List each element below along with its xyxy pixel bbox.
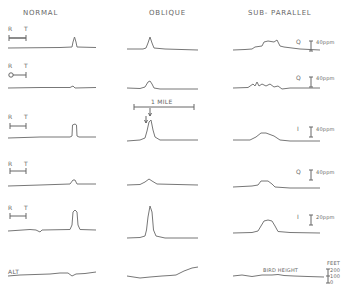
normal-trace-row2 bbox=[8, 86, 96, 88]
rt-marker bbox=[10, 168, 26, 174]
ppm-scale-bar bbox=[309, 215, 313, 225]
normal-trace-row5 bbox=[8, 210, 96, 232]
ppm-scale-bar bbox=[309, 127, 313, 137]
oblique-trace-row1 bbox=[127, 37, 198, 50]
altitude-trace-bird-height bbox=[233, 275, 324, 278]
altitude-trace-normal bbox=[8, 272, 96, 276]
one-mile-scale-bar bbox=[134, 104, 194, 123]
rt-marker bbox=[9, 72, 26, 78]
ppm-scale-bar bbox=[309, 170, 313, 180]
oblique-trace-row4 bbox=[127, 179, 198, 185]
oblique-trace-row5 bbox=[127, 206, 198, 238]
feet-scale-bar bbox=[326, 269, 330, 283]
ppm-scale-bar bbox=[309, 77, 313, 87]
rt-marker bbox=[10, 213, 26, 219]
altitude-trace-oblique bbox=[127, 267, 198, 278]
subparallel-trace-row1 bbox=[233, 40, 320, 50]
normal-trace-row4 bbox=[8, 180, 96, 186]
subparallel-trace-row3 bbox=[233, 133, 320, 141]
rt-marker bbox=[9, 35, 26, 41]
rt-marker bbox=[10, 123, 26, 129]
oblique-trace-row2 bbox=[127, 81, 198, 89]
subparallel-trace-row4 bbox=[233, 181, 320, 188]
subparallel-trace-row2 bbox=[233, 82, 320, 89]
em-profile-diagram bbox=[0, 0, 346, 289]
subparallel-trace-row5 bbox=[233, 220, 320, 233]
oblique-trace-row3 bbox=[127, 120, 198, 141]
